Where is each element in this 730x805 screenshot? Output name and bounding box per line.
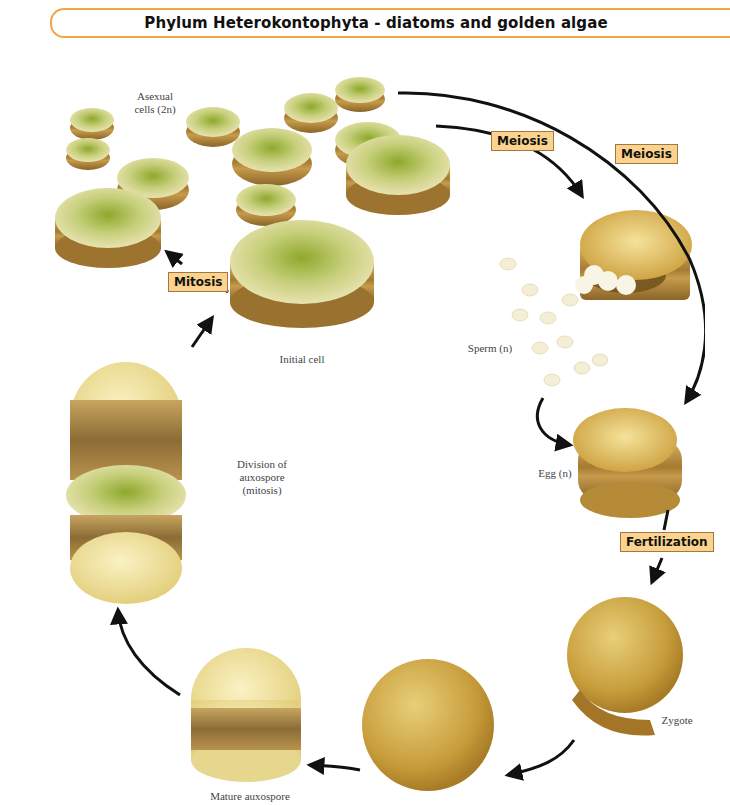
young-auxospore-illustration: [362, 659, 494, 791]
meiosis-diatom-illustration: [575, 210, 692, 300]
label-asexual-cells: Asexual cells (2n): [125, 90, 185, 116]
label-egg: Egg (n): [530, 467, 580, 480]
stage-meiosis-1: Meiosis: [491, 131, 554, 151]
initial-cell-illustration: [230, 220, 374, 328]
label-division-of-auxospore: Division of auxospore (mitosis): [222, 458, 302, 497]
label-sperm: Sperm (n): [460, 342, 520, 355]
label-initial-cell: Initial cell: [262, 353, 342, 366]
egg-cell-illustration: [573, 408, 682, 518]
stage-mitosis: Mitosis: [168, 272, 228, 292]
dividing-auxospore-illustration: [66, 362, 186, 604]
mature-auxospore-illustration: [191, 648, 301, 782]
label-zygote: Zygote: [652, 714, 702, 727]
stage-fertilization: Fertilization: [620, 532, 714, 552]
label-mature-auxospore: Mature auxospore: [195, 790, 305, 803]
stage-meiosis-2: Meiosis: [615, 144, 678, 164]
